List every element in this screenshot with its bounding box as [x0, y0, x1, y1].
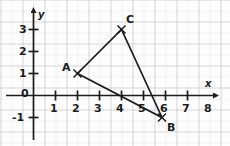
x-tick-label-3: 3	[94, 103, 102, 114]
coordinate-plane-svg	[0, 0, 230, 146]
x-tick-label-7: 7	[182, 103, 190, 114]
vertex-label-b: B	[167, 122, 175, 133]
y-tick-label-neg1: -1	[12, 112, 24, 123]
vertex-label-c: C	[126, 14, 134, 25]
x-tick-label-6: 6	[160, 103, 168, 114]
x-axis-label: x	[205, 79, 211, 89]
x-tick-label-2: 2	[72, 103, 80, 114]
y-tick-label-3: 3	[19, 24, 27, 35]
x-tick-label-4: 4	[116, 103, 124, 114]
x-tick-label-1: 1	[50, 103, 58, 114]
origin-label: 0	[21, 88, 29, 99]
vertex-label-a: A	[62, 62, 71, 73]
coordinate-plane-figure: 1 2 3 4 5 6 7 8 -1 1 2 3 0 x y A C B	[0, 0, 230, 146]
x-tick-label-5: 5	[138, 103, 146, 114]
y-tick-label-2: 2	[19, 46, 27, 57]
x-tick-label-8: 8	[204, 103, 212, 114]
y-tick-label-1: 1	[19, 68, 27, 79]
y-axis-label: y	[38, 10, 45, 20]
